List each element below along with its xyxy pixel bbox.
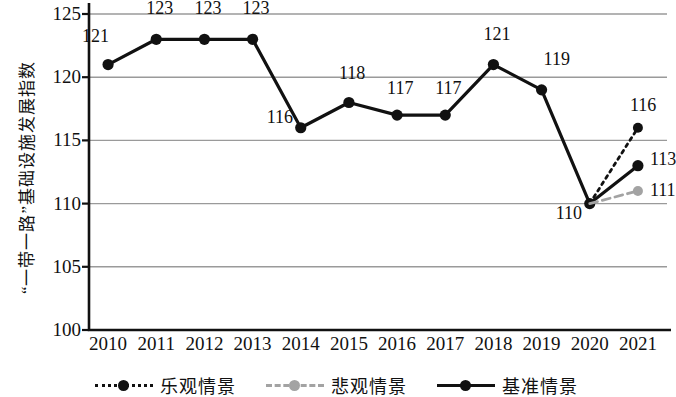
legend-dot-icon	[460, 380, 471, 391]
legend-item[interactable]: 悲观情景	[266, 372, 407, 397]
x-axis-tick-label: 2019	[515, 334, 569, 353]
x-axis-tick-label: 2021	[611, 334, 665, 353]
data-label-baseline: 117	[435, 79, 461, 97]
data-point-marker	[247, 34, 258, 45]
y-axis-tick-label: 100	[37, 320, 81, 339]
y-axis-tick-label: 110	[37, 194, 81, 213]
x-axis-tick-label: 2011	[129, 334, 183, 353]
data-point-marker	[633, 186, 643, 196]
x-axis-tick-label: 2014	[274, 334, 328, 353]
y-axis-title: “一带一路”基础设施发展指数	[13, 8, 38, 348]
data-label-baseline: 123	[194, 0, 221, 17]
data-label-baseline: 123	[243, 0, 270, 17]
x-axis-tick-label: 2020	[563, 334, 617, 353]
x-axis-tick-label: 2012	[177, 334, 231, 353]
data-point-marker	[295, 122, 306, 133]
x-axis-tick-label: 2016	[370, 334, 424, 353]
data-label-pessimistic: 111	[650, 181, 676, 199]
data-label-baseline: 116	[267, 108, 293, 126]
legend-marker-icon	[437, 378, 495, 392]
data-label-baseline: 118	[339, 64, 365, 82]
legend-label: 乐观情景	[160, 372, 236, 397]
data-label-baseline: 110	[556, 204, 582, 222]
data-label-baseline: 121	[82, 27, 109, 45]
data-point-marker	[391, 110, 402, 121]
x-axis-tick-label: 2018	[466, 334, 520, 353]
legend-item[interactable]: 乐观情景	[95, 372, 236, 397]
data-point-marker	[199, 34, 210, 45]
data-point-marker	[343, 97, 354, 108]
data-label-optimistic: 116	[630, 96, 656, 114]
data-label-baseline: 113	[650, 150, 676, 168]
legend-label: 悲观情景	[331, 372, 407, 397]
y-axis-tick-label: 125	[37, 4, 81, 23]
data-point-marker	[632, 160, 643, 171]
legend-item[interactable]: 基准情景	[437, 372, 578, 397]
x-axis-tick-label: 2017	[418, 334, 472, 353]
chart-legend: 乐观情景悲观情景基准情景	[0, 372, 673, 397]
x-axis-tick-label: 2010	[81, 334, 135, 353]
legend-dot-icon	[118, 380, 129, 391]
legend-dot-icon	[289, 380, 300, 391]
data-label-baseline: 119	[544, 50, 570, 68]
y-axis-tick-label: 115	[37, 130, 81, 149]
data-point-marker	[536, 84, 547, 95]
x-axis-tick-label: 2013	[226, 334, 280, 353]
data-point-marker	[488, 59, 499, 70]
data-label-baseline: 117	[387, 79, 413, 97]
legend-marker-icon	[95, 378, 153, 392]
legend-marker-icon	[266, 378, 324, 392]
y-axis-tick-label: 120	[37, 67, 81, 86]
y-axis-tick-label: 105	[37, 257, 81, 276]
data-point-marker	[440, 110, 451, 121]
data-label-baseline: 123	[146, 0, 173, 17]
x-axis-tick-label: 2015	[322, 334, 376, 353]
legend-label: 基准情景	[502, 372, 578, 397]
data-point-marker	[151, 34, 162, 45]
data-point-marker	[102, 59, 113, 70]
data-point-marker	[633, 123, 643, 133]
data-label-baseline: 121	[483, 25, 510, 43]
axis-spine	[89, 3, 671, 330]
